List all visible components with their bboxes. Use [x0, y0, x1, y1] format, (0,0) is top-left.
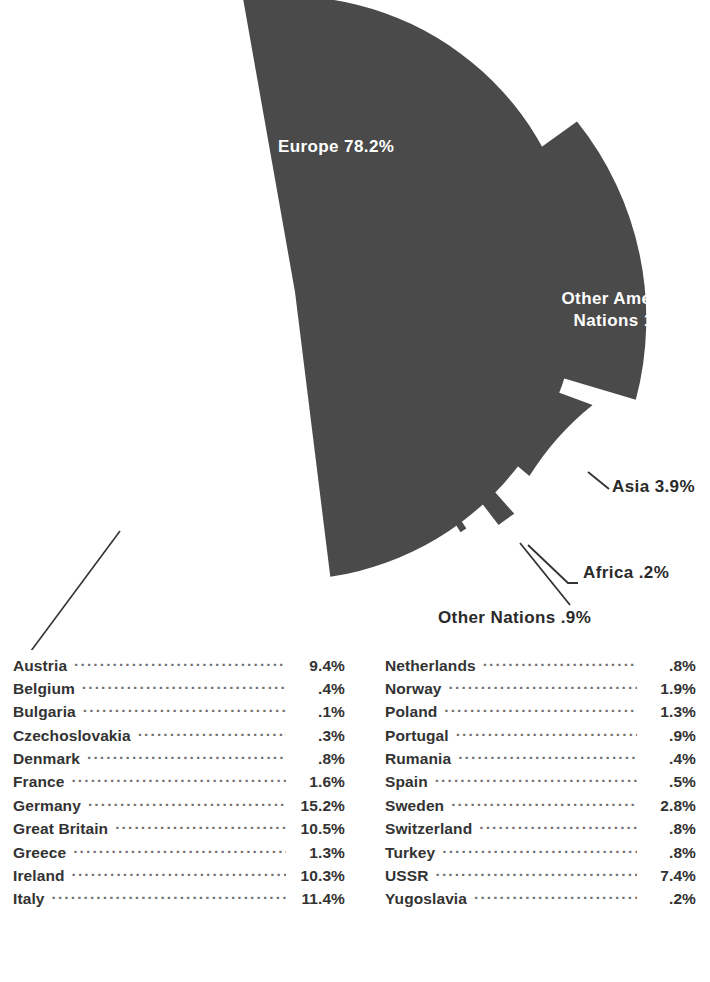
table-row[interactable]: Portugal.9% — [385, 725, 696, 748]
pie-label-asia: Asia 3.9% — [612, 476, 695, 498]
dot-leader — [442, 842, 637, 858]
pie-label-other-nations: Other Nations .9% — [438, 607, 591, 629]
table-row[interactable]: Belgium.4% — [13, 678, 345, 701]
dot-leader — [449, 678, 637, 694]
country-value: .8% — [639, 657, 696, 675]
table-row[interactable]: Austria9.4% — [13, 655, 345, 678]
country-value: .4% — [288, 680, 345, 698]
country-name: Portugal — [385, 727, 454, 745]
dot-leader — [115, 819, 286, 835]
country-value: .9% — [639, 727, 696, 745]
table-row[interactable]: Rumania.4% — [385, 749, 696, 772]
dot-leader — [456, 725, 637, 741]
country-value: 1.6% — [288, 773, 345, 791]
table-row[interactable]: Denmark.8% — [13, 749, 345, 772]
dot-leader — [474, 889, 637, 905]
country-value: .8% — [639, 844, 696, 862]
table-row[interactable]: Germany15.2% — [13, 795, 345, 818]
country-name: Netherlands — [385, 657, 481, 675]
country-value: 11.4% — [288, 890, 345, 908]
table-row[interactable]: Bulgaria.1% — [13, 702, 345, 725]
country-name: USSR — [385, 867, 433, 885]
dot-leader — [71, 772, 286, 788]
country-name: Switzerland — [385, 820, 477, 838]
pie-chart: Europe 78.2% Other AmericanNations 16.8%… — [0, 0, 710, 650]
dot-leader — [458, 749, 637, 765]
dot-leader — [73, 842, 286, 858]
table-column-right: Netherlands.8%Norway1.9%Poland1.3%Portug… — [355, 655, 710, 975]
table-row[interactable]: Ireland10.3% — [13, 866, 345, 889]
country-value: 10.5% — [288, 820, 345, 838]
dot-leader — [74, 655, 286, 671]
country-value: .5% — [639, 773, 696, 791]
dot-leader — [435, 866, 637, 882]
country-name: Belgium — [13, 680, 80, 698]
country-name: Spain — [385, 773, 433, 791]
country-name: Turkey — [385, 844, 440, 862]
dot-leader — [83, 702, 286, 718]
table-row[interactable]: Norway1.9% — [385, 678, 696, 701]
country-name: Czechoslovakia — [13, 727, 136, 745]
country-value: 1.3% — [288, 844, 345, 862]
leader-line-asia — [588, 472, 609, 489]
table-row[interactable]: Sweden2.8% — [385, 795, 696, 818]
country-value: 10.3% — [288, 867, 345, 885]
table-row[interactable]: Great Britain10.5% — [13, 819, 345, 842]
country-name: Greece — [13, 844, 71, 862]
country-value: .3% — [288, 727, 345, 745]
country-name: Norway — [385, 680, 447, 698]
country-value: 7.4% — [639, 867, 696, 885]
dot-leader — [52, 889, 286, 905]
pie-label-africa: Africa .2% — [583, 562, 669, 584]
table-row[interactable]: Spain.5% — [385, 772, 696, 795]
table-row[interactable]: Greece1.3% — [13, 842, 345, 865]
country-name: Germany — [13, 797, 86, 815]
table-row[interactable]: Czechoslovakia.3% — [13, 725, 345, 748]
country-value: 1.9% — [639, 680, 696, 698]
dot-leader — [72, 866, 286, 882]
leader-line-europe — [28, 531, 120, 650]
country-value: 9.4% — [288, 657, 345, 675]
dot-leader — [479, 819, 637, 835]
table-row[interactable]: Switzerland.8% — [385, 819, 696, 842]
country-name: Ireland — [13, 867, 70, 885]
country-name: Italy — [13, 890, 50, 908]
dot-leader — [138, 725, 286, 741]
table-row[interactable]: Poland1.3% — [385, 702, 696, 725]
dot-leader — [451, 795, 637, 811]
pie-label-europe: Europe 78.2% — [278, 136, 394, 158]
country-name: Great Britain — [13, 820, 113, 838]
dot-leader — [435, 772, 637, 788]
dot-leader — [87, 749, 286, 765]
table-row[interactable]: USSR7.4% — [385, 866, 696, 889]
country-name: Bulgaria — [13, 703, 81, 721]
pie-label-other-american-line2: Nations 16.8% — [574, 311, 694, 330]
country-value: 2.8% — [639, 797, 696, 815]
leader-line-other-nations — [520, 543, 570, 605]
country-name: Sweden — [385, 797, 449, 815]
table-row[interactable]: Netherlands.8% — [385, 655, 696, 678]
country-name: Poland — [385, 703, 442, 721]
country-value: .1% — [288, 703, 345, 721]
country-name: Rumania — [385, 750, 456, 768]
pie-label-other-american-line1: Other American — [561, 289, 694, 308]
country-name: Denmark — [13, 750, 85, 768]
country-name: France — [13, 773, 69, 791]
table-row[interactable]: Italy11.4% — [13, 889, 345, 912]
country-value: .8% — [288, 750, 345, 768]
country-value: .4% — [639, 750, 696, 768]
country-breakdown-table: Austria9.4%Belgium.4%Bulgaria.1%Czechosl… — [0, 655, 710, 975]
country-value: .8% — [639, 820, 696, 838]
pie-label-other-american-nations: Other AmericanNations 16.8% — [458, 288, 694, 333]
table-row[interactable]: Turkey.8% — [385, 842, 696, 865]
dot-leader — [444, 702, 637, 718]
country-value: .2% — [639, 890, 696, 908]
country-value: 15.2% — [288, 797, 345, 815]
table-row[interactable]: France1.6% — [13, 772, 345, 795]
dot-leader — [88, 795, 286, 811]
country-name: Yugoslavia — [385, 890, 472, 908]
table-column-left: Austria9.4%Belgium.4%Bulgaria.1%Czechosl… — [0, 655, 355, 975]
country-name: Austria — [13, 657, 72, 675]
table-row[interactable]: Yugoslavia.2% — [385, 889, 696, 912]
dot-leader — [483, 655, 637, 671]
